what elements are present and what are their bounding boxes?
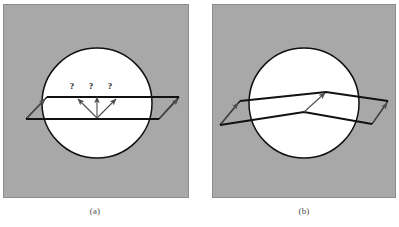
panel-a-caption: (a) (0, 206, 190, 216)
panel-a-question-mark-3: ? (108, 81, 113, 91)
panel-b-caption: (b) (210, 206, 398, 216)
panel-b (212, 4, 396, 198)
panel-a-question-mark-1: ? (70, 81, 75, 91)
figure-root: ? ? ? (0, 0, 399, 227)
panel-a-question-mark-2: ? (89, 81, 94, 91)
panel-b-circle (249, 48, 359, 158)
panel-b-graphic (212, 4, 396, 198)
panel-a-graphic: ? ? ? (3, 4, 189, 198)
panel-a: ? ? ? (3, 4, 189, 198)
